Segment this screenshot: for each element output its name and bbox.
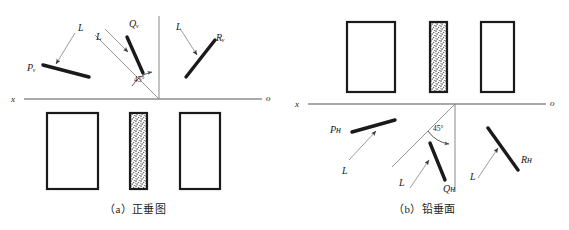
leader-label-r-b: L [469, 171, 476, 182]
panel-a: x o Pᵥ L Qᵥ L Rᵥ L 45° [10, 16, 271, 189]
trace-line-q-a [127, 37, 143, 73]
trace-line-r-b [488, 128, 518, 170]
trace-label-r-b: Rн [520, 154, 532, 165]
trace-label-r-a: Rᵥ [215, 32, 225, 43]
axis-label-o-a: o [266, 93, 271, 103]
plate-left-a [47, 113, 98, 189]
caption-panel-b: （b）铅垂面 [393, 200, 456, 216]
trace-label-p-a: Pᵥ [26, 62, 36, 73]
panel-b: x o Pн L Qн L Rн L 45° [294, 22, 555, 194]
leader-label-p-b: L [341, 165, 348, 176]
leader-label-q-b: L [398, 177, 405, 188]
descriptive-geometry-figure: x o Pᵥ L Qᵥ L Rᵥ L 45° [0, 0, 569, 230]
trace-label-q-b: Qн [443, 183, 455, 194]
axis-label-x-b: x [294, 99, 299, 109]
leader-line-r-b [478, 148, 498, 178]
trace-label-p-b: Pн [329, 124, 341, 135]
trace-label-q-a: Qᵥ [129, 18, 139, 29]
forty-five-degree-reference-line-b [392, 104, 455, 167]
caption-panel-a: （a）正垂图 [104, 200, 166, 216]
leader-line-q-b [410, 160, 429, 188]
trace-line-p-b [352, 120, 395, 132]
figure-root: x o Pᵥ L Qᵥ L Rᵥ L 45° [0, 0, 569, 230]
trace-line-p-a [43, 65, 89, 77]
trace-line-q-b [430, 143, 445, 180]
trace-line-r-a [186, 40, 215, 77]
axis-label-o-b: o [550, 98, 555, 108]
angle-label-b: 45° [433, 124, 444, 133]
plate-right-a [180, 113, 220, 189]
angle-label-a: 45° [134, 75, 145, 84]
plate-middle-b [430, 22, 447, 92]
plate-right-b [481, 22, 514, 92]
axis-label-x-a: x [10, 94, 15, 104]
plate-middle-a [130, 113, 147, 189]
leader-label-q-a: L [95, 31, 102, 42]
leader-line-p-a [56, 33, 75, 64]
plate-left-b [347, 22, 395, 92]
leader-label-r-a: L [175, 21, 182, 32]
leader-label-p-a: L [77, 22, 84, 33]
leader-line-r-a [181, 30, 197, 55]
leader-line-p-b [349, 131, 376, 160]
forty-five-degree-reference-line-a [95, 35, 159, 99]
